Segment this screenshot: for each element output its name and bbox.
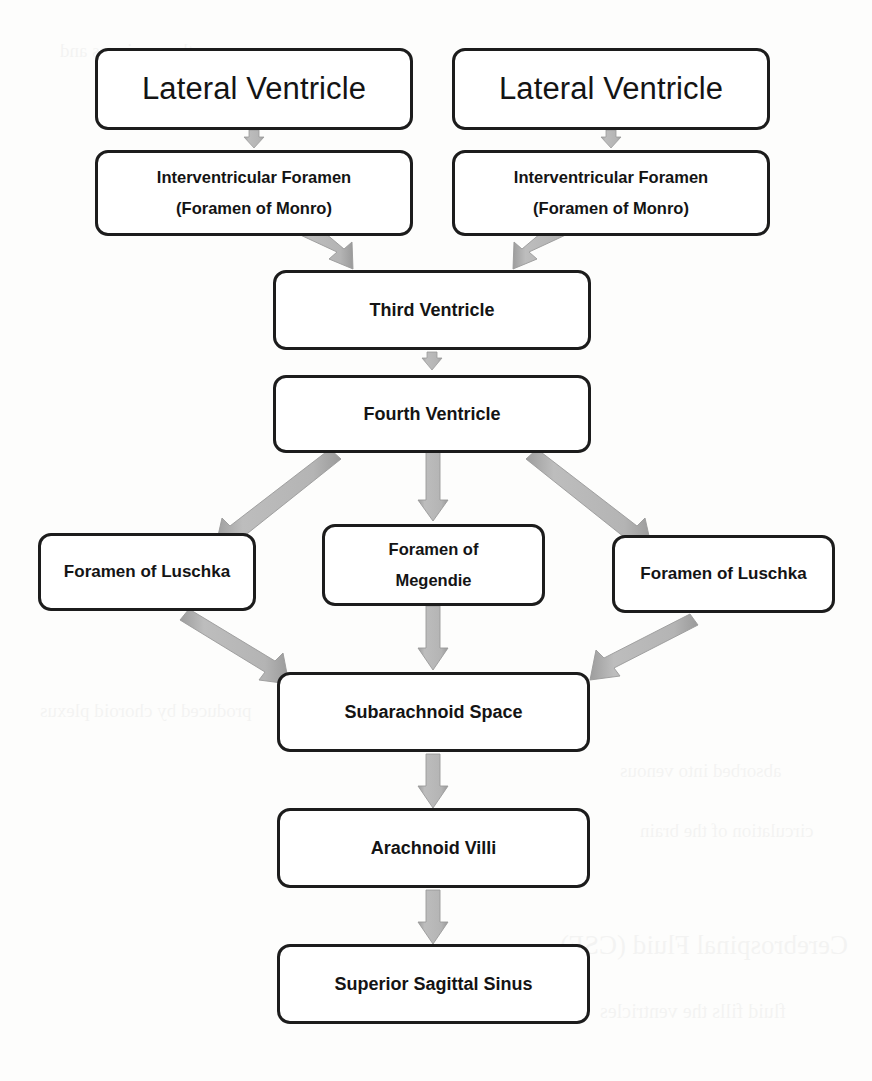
arrow-luschka-left-to-subarachnoid xyxy=(180,609,289,684)
node-foramen-megendie[interactable]: Foramen of Megendie xyxy=(322,524,545,606)
node-label-line1: Interventricular Foramen xyxy=(106,162,402,193)
arrow-megendie-to-subarachnoid xyxy=(418,606,448,670)
node-label: Foramen of Luschka xyxy=(49,560,245,585)
node-foramen-monro-left[interactable]: Interventricular Foramen (Foramen of Mon… xyxy=(95,150,413,236)
node-lateral-ventricle-left[interactable]: Lateral Ventricle xyxy=(95,48,413,130)
scan-bleedthrough-artifact: circulation of the brain xyxy=(640,820,814,842)
node-fourth-ventricle[interactable]: Fourth Ventricle xyxy=(273,375,591,453)
node-foramen-luschka-right[interactable]: Foramen of Luschka xyxy=(612,535,835,613)
scan-bleedthrough-artifact: absorbed into venous xyxy=(620,760,781,782)
node-label: Third Ventricle xyxy=(284,297,580,323)
scan-bleedthrough-artifact: Cerebrospinal Fluid (CSF) xyxy=(560,930,848,961)
node-label: Lateral Ventricle xyxy=(463,67,759,112)
arrow-lateral-left-to-monro-left xyxy=(244,130,264,148)
node-label-line1: Interventricular Foramen xyxy=(463,162,759,193)
arrow-arachnoid-villi-to-sagittal-sinus xyxy=(418,890,448,944)
arrow-fourth-to-megendie xyxy=(418,452,448,521)
node-label: Foramen of Luschka xyxy=(623,562,824,587)
node-foramen-monro-right[interactable]: Interventricular Foramen (Foramen of Mon… xyxy=(452,150,770,236)
node-label: Subarachnoid Space xyxy=(288,699,579,725)
arrow-third-to-fourth-ventricle xyxy=(422,352,442,370)
node-label: Fourth Ventricle xyxy=(284,401,580,427)
node-subarachnoid-space[interactable]: Subarachnoid Space xyxy=(277,672,590,752)
node-label-line1: Foramen of xyxy=(333,534,534,565)
node-label: Arachnoid Villi xyxy=(288,835,579,861)
node-label-line2: (Foramen of Monro) xyxy=(463,193,759,224)
arrow-fourth-to-luschka-right xyxy=(526,449,652,549)
arrow-subarachnoid-to-arachnoid-villi xyxy=(418,754,448,808)
node-third-ventricle[interactable]: Third Ventricle xyxy=(273,270,591,350)
node-label-line2: Megendie xyxy=(333,565,534,596)
arrow-luschka-right-to-subarachnoid xyxy=(590,614,698,680)
node-arachnoid-villi[interactable]: Arachnoid Villi xyxy=(277,808,590,888)
scan-bleedthrough-artifact: produced by choroid plexus xyxy=(40,700,252,722)
node-label-line2: (Foramen of Monro) xyxy=(106,193,402,224)
scan-bleedthrough-artifact: fluid fills the ventricles xyxy=(600,1000,786,1023)
node-lateral-ventricle-right[interactable]: Lateral Ventricle xyxy=(452,48,770,130)
flowchart-canvas: Cerebrospinal Fluid (CSF) fluid fills th… xyxy=(0,0,872,1081)
node-label: Lateral Ventricle xyxy=(106,67,402,112)
node-superior-sagittal-sinus[interactable]: Superior Sagittal Sinus xyxy=(277,944,590,1024)
node-foramen-luschka-left[interactable]: Foramen of Luschka xyxy=(38,533,256,611)
arrow-lateral-right-to-monro-right xyxy=(601,130,621,148)
node-label: Superior Sagittal Sinus xyxy=(288,971,579,997)
